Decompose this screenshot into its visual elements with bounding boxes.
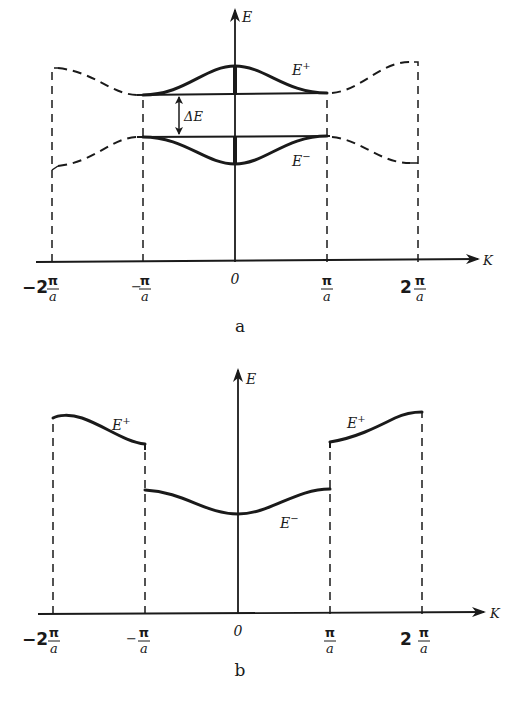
svg-text:π: π (419, 625, 429, 640)
svg-text:a: a (416, 289, 424, 304)
svg-text:a: a (323, 289, 331, 304)
extended-lower-left-a (58, 137, 138, 166)
extended-upper-left-a (58, 68, 138, 95)
upper-band-label-right-b: E+ (346, 413, 366, 431)
e-axis-label-b: E (245, 371, 256, 387)
svg-text:π: π (325, 625, 335, 640)
svg-text:a: a (140, 641, 148, 656)
lower-band-label-a: E− (291, 151, 311, 169)
panel-a: E K ΔE E+ E− −2 π (22, 9, 494, 336)
tick-negpi-b: − π a (126, 625, 150, 656)
svg-text:a: a (49, 289, 57, 304)
k-axis-a (36, 259, 478, 262)
band-structure-diagram: E K ΔE E+ E− −2 π (0, 0, 521, 705)
svg-text:2: 2 (400, 629, 412, 649)
tick-neg2pi-b: −2 π a (22, 625, 60, 656)
caption-a: a (235, 316, 245, 336)
tick-negpi-a: − π a (131, 273, 151, 304)
lower-band-edge-a (137, 136, 330, 137)
svg-text:2: 2 (400, 277, 412, 297)
tick-neg2pi-a: −2 π a (22, 273, 59, 304)
upper-band-label-a: E+ (291, 60, 311, 78)
panel-b: E K E+ E+ E− −2 π a − π a 0 π (22, 370, 501, 680)
tick-pi-b: π a (324, 625, 336, 656)
k-axis-label-b: K (489, 606, 501, 621)
e-axis-label-a: E (241, 9, 252, 25)
k-axis-b (38, 612, 484, 614)
tick-pi-a: π a (321, 273, 333, 304)
tick-2pi-b: 2 π a (400, 625, 430, 656)
svg-text:π: π (322, 273, 332, 288)
extended-upper-right-a (332, 62, 410, 93)
svg-text:a: a (141, 289, 149, 304)
svg-text:a: a (326, 641, 334, 656)
svg-text:π: π (139, 625, 149, 640)
gap-label: ΔE (183, 109, 203, 124)
svg-text:π: π (48, 273, 58, 288)
caption-b: b (235, 660, 246, 680)
svg-text:−2: −2 (22, 629, 48, 649)
svg-text:π: π (140, 273, 150, 288)
svg-text:−: − (126, 631, 137, 646)
svg-text:a: a (50, 641, 58, 656)
zone-line-neg2pi-upper-a (52, 68, 58, 262)
extended-lower-right-a (332, 137, 410, 163)
zone-line-2pi-upper-a (410, 62, 418, 262)
upper-band-label-left-b: E+ (111, 415, 131, 433)
upper-band-left-b (53, 415, 145, 444)
tick-zero-b: 0 (234, 623, 243, 639)
tick-zero-a: 0 (231, 271, 240, 287)
k-axis-label-a: K (482, 253, 494, 268)
svg-text:π: π (415, 273, 425, 288)
zone-corner-neg2pi-lower-a (52, 166, 58, 170)
tick-2pi-a: 2 π a (400, 273, 426, 304)
svg-text:π: π (49, 625, 59, 640)
lower-band-label-b: E− (279, 513, 299, 531)
svg-text:−2: −2 (22, 277, 48, 297)
svg-text:a: a (420, 641, 428, 656)
upper-band-right-b (330, 412, 422, 442)
